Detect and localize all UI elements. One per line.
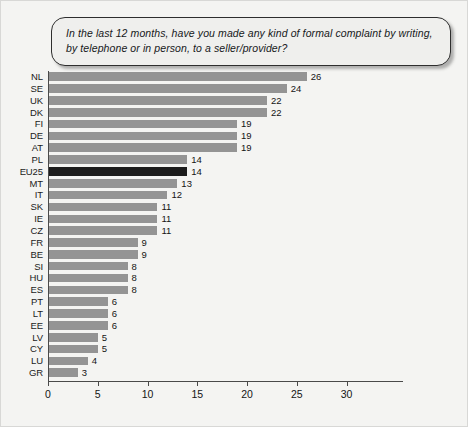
category-label-lv: LV xyxy=(1,332,43,344)
bar-track: 5 xyxy=(48,332,468,344)
bar-track: 11 xyxy=(48,213,468,225)
bar-de xyxy=(48,132,237,141)
tick-mark-15 xyxy=(197,381,198,386)
bar-track: 8 xyxy=(48,284,468,296)
bar-value-de: 19 xyxy=(241,130,252,142)
bar-track: 12 xyxy=(48,189,468,201)
category-label-de: DE xyxy=(1,130,43,142)
bar-value-si: 8 xyxy=(132,261,137,273)
bar-track: 9 xyxy=(48,249,468,261)
bar-pt xyxy=(48,297,108,306)
bar-track: 4 xyxy=(48,355,468,367)
category-label-mt: MT xyxy=(1,178,43,190)
tick-mark-0 xyxy=(48,381,49,386)
bar-row: HU8 xyxy=(1,272,468,284)
bar-cy xyxy=(48,345,98,354)
category-label-gr: GR xyxy=(1,367,43,379)
category-label-lt: LT xyxy=(1,308,43,320)
bar-sk xyxy=(48,203,157,212)
bar-value-ee: 6 xyxy=(112,320,117,332)
category-label-it: IT xyxy=(1,189,43,201)
bar-dk xyxy=(48,108,267,117)
category-label-pl: PL xyxy=(1,154,43,166)
bar-value-mt: 13 xyxy=(181,178,192,190)
bar-row: AT19 xyxy=(1,142,468,154)
bar-value-sk: 11 xyxy=(161,201,171,213)
bar-row: BE9 xyxy=(1,249,468,261)
bar-track: 9 xyxy=(48,237,468,249)
x-axis-line xyxy=(48,381,403,382)
bar-row: IE11 xyxy=(1,213,468,225)
bar-track: 13 xyxy=(48,178,468,190)
bar-track: 6 xyxy=(48,296,468,308)
bar-track: 26 xyxy=(48,71,468,83)
category-label-cz: CZ xyxy=(1,225,43,237)
bar-row: DK22 xyxy=(1,107,468,119)
category-label-be: BE xyxy=(1,249,43,261)
bar-uk xyxy=(48,96,267,105)
bar-value-lu: 4 xyxy=(92,355,97,367)
bar-be xyxy=(48,250,138,259)
tick-label-30: 30 xyxy=(341,388,353,400)
bar-value-lt: 6 xyxy=(112,308,117,320)
question-callout: In the last 12 months, have you made any… xyxy=(51,17,451,66)
category-label-uk: UK xyxy=(1,95,43,107)
bar-value-pl: 14 xyxy=(191,154,202,166)
bar-value-fr: 9 xyxy=(142,237,147,249)
chart-figure: In the last 12 months, have you made any… xyxy=(0,0,468,427)
bar-row: UK22 xyxy=(1,95,468,107)
bar-track: 6 xyxy=(48,320,468,332)
category-label-ie: IE xyxy=(1,213,43,225)
bar-value-at: 19 xyxy=(241,142,252,154)
bar-row: FI19 xyxy=(1,118,468,130)
category-label-es: ES xyxy=(1,284,43,296)
bar-track: 24 xyxy=(48,83,468,95)
category-label-ee: EE xyxy=(1,320,43,332)
bar-value-dk: 22 xyxy=(271,107,282,119)
bar-row: PL14 xyxy=(1,154,468,166)
category-label-fr: FR xyxy=(1,237,43,249)
category-label-pt: PT xyxy=(1,296,43,308)
bar-row: SI8 xyxy=(1,261,468,273)
tick-label-25: 25 xyxy=(291,388,303,400)
bar-value-gr: 3 xyxy=(82,367,87,379)
bar-ee xyxy=(48,321,108,330)
bar-lv xyxy=(48,333,98,342)
category-label-hu: HU xyxy=(1,272,43,284)
bar-value-lv: 5 xyxy=(102,332,107,344)
bar-track: 19 xyxy=(48,118,468,130)
bar-row: LT6 xyxy=(1,308,468,320)
bar-it xyxy=(48,191,167,200)
tick-mark-20 xyxy=(247,381,248,386)
bar-track: 5 xyxy=(48,343,468,355)
bar-cz xyxy=(48,226,157,235)
bar-track: 8 xyxy=(48,272,468,284)
bar-fr xyxy=(48,238,138,247)
tick-mark-5 xyxy=(98,381,99,386)
bar-value-cy: 5 xyxy=(102,343,107,355)
tick-mark-10 xyxy=(148,381,149,386)
plot-area: NL26SE24UK22DK22FI19DE19AT19PL14EU2514MT… xyxy=(1,71,468,416)
category-label-eu25: EU25 xyxy=(1,166,43,178)
bar-gr xyxy=(48,368,78,377)
bar-nl xyxy=(48,72,307,81)
tick-mark-25 xyxy=(297,381,298,386)
bar-row: CZ11 xyxy=(1,225,468,237)
y-axis-line xyxy=(48,71,49,382)
bar-at xyxy=(48,143,237,152)
bar-es xyxy=(48,286,128,295)
bar-row: ES8 xyxy=(1,284,468,296)
category-label-sk: SK xyxy=(1,201,43,213)
bar-value-eu25: 14 xyxy=(191,166,202,178)
bar-track: 19 xyxy=(48,142,468,154)
bar-value-se: 24 xyxy=(291,83,302,95)
bar-value-pt: 6 xyxy=(112,296,117,308)
category-label-dk: DK xyxy=(1,107,43,119)
category-label-cy: CY xyxy=(1,343,43,355)
bar-fi xyxy=(48,120,237,129)
bar-value-es: 8 xyxy=(132,284,137,296)
bar-value-cz: 11 xyxy=(161,225,171,237)
bar-row: FR9 xyxy=(1,237,468,249)
bar-row: SE24 xyxy=(1,83,468,95)
bar-track: 11 xyxy=(48,201,468,213)
